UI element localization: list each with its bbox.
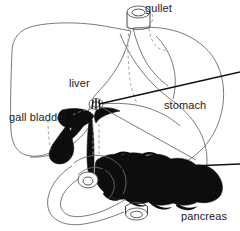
leader-lines — [48, 14, 240, 170]
label-pancreas: pancreas — [181, 210, 227, 222]
label-gullet: gullet — [145, 2, 172, 14]
label-liver: liver — [69, 77, 90, 89]
label-stomach: stomach — [164, 99, 206, 111]
anatomy-diagram: gullet liver gall bladder stomach pancre… — [0, 0, 240, 231]
label-gall-bladder: gall bladder — [9, 111, 67, 123]
gall-bladder-shape — [49, 126, 74, 164]
